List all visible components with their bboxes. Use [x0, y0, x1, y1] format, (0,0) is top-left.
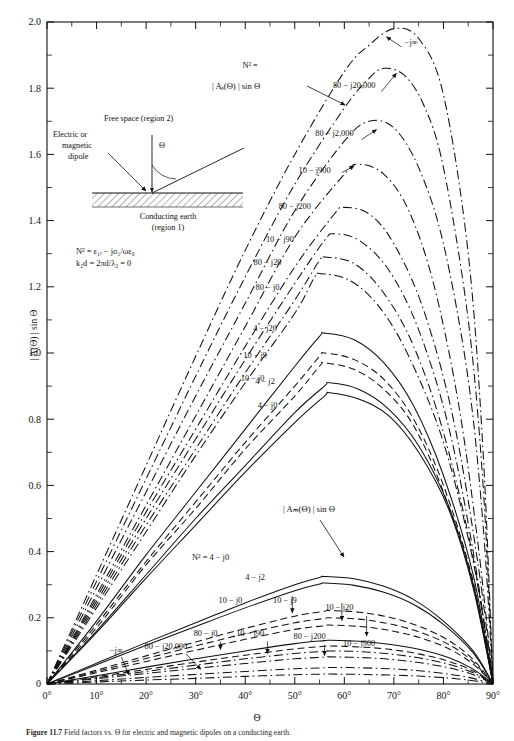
magnetic-group-annotation: | Aₘ(Θ) | sin Θ — [283, 504, 335, 514]
curve-label-leader — [342, 166, 354, 173]
curve-labels-layer: N² =−j∞80 − j20,00080 − j2,00010 − j9008… — [110, 37, 418, 675]
y-tick-label: 0.6 — [29, 480, 42, 491]
inset-earth-hatch — [92, 193, 243, 207]
curve-label: 80 − j200 — [294, 632, 326, 641]
x-tick-label: 60° — [337, 690, 351, 701]
curve-m-4-j0 — [47, 576, 493, 684]
magnetic-group-leader — [320, 520, 344, 557]
figure-caption-number: Figure 11.7 — [26, 728, 62, 737]
curve-label: 10 − j90 — [236, 629, 264, 638]
y-tick-label: 0.2 — [29, 612, 42, 623]
y-tick-label: 0.8 — [29, 414, 42, 425]
inset-dipole-leader — [108, 153, 146, 191]
x-tick-label: 90° — [486, 690, 500, 701]
curve-label: N² = 4 − j0 — [192, 553, 229, 562]
x-tick-label: 50° — [288, 690, 302, 701]
curves-layer — [47, 28, 493, 684]
curve-label-leader — [382, 73, 397, 91]
curve-label: 4 − j0 — [258, 401, 278, 410]
curve-label: 10 − j9 — [273, 596, 297, 605]
curve-label: 80 − j20,000 — [145, 642, 188, 651]
inset-diagram: Free space (region 2) Electric or magnet… — [53, 114, 244, 232]
inset-equations: N² = ε₁ᵣ − jσ₁/ωε₀ k₂d = 2πd/λ₂ = 0 — [76, 247, 135, 268]
electric-group-annotation: | Aₑ(Θ) | sin Θ — [212, 81, 260, 91]
curve-label-leader — [362, 130, 377, 140]
curve-label: N² = — [242, 61, 258, 70]
curve-4-j2 — [47, 382, 493, 684]
curve-label: 10 − j90 — [266, 235, 294, 244]
curve-80-j20000 — [47, 68, 493, 684]
inset-theta-arc — [152, 165, 176, 179]
x-tick-label: 40° — [238, 690, 252, 701]
figure-caption-text: Field factors vs. Θ for electric and mag… — [64, 728, 291, 737]
x-tick-label: 0° — [43, 690, 52, 701]
curve-group-magnetic-dipole — [47, 576, 493, 684]
curve-label: 10 − j20 — [325, 603, 353, 612]
inset-free-space-label: Free space (region 2) — [104, 114, 174, 123]
curve-label: 80 − j200 — [279, 202, 311, 211]
x-tick-label: 20° — [139, 690, 153, 701]
curve-label: 4 − j2 — [255, 377, 275, 386]
curve--j∞ — [47, 28, 493, 684]
equation-n-squared: N² = ε₁ᵣ − jσ₁/ωε₀ — [76, 247, 135, 256]
curve-label: 80 − j0 — [256, 283, 280, 292]
curve-label: 4 − j2 — [245, 573, 265, 582]
chart-canvas: 00.20.40.60.81.01.21.41.61.82.0 0°10°20°… — [0, 0, 514, 741]
curve-label-leader — [386, 37, 401, 47]
y-tick-label: 0.4 — [29, 546, 42, 557]
inset-ray-line — [152, 148, 244, 193]
equation-k2d: k₂d = 2πd/λ₂ = 0 — [76, 259, 131, 268]
x-axis-label: Θ — [0, 712, 514, 723]
curve-label: −j∞ — [405, 38, 418, 47]
curve-label: 10 − j0 — [218, 596, 242, 605]
curve-label: 80 − j0 — [194, 629, 218, 638]
x-tick-label: 80° — [436, 690, 450, 701]
inset-theta-symbol: Θ — [159, 141, 165, 150]
y-tick-label: 1.4 — [29, 215, 42, 226]
curve-label: 80 − j20,000 — [333, 81, 376, 90]
inset-earth-label-line1: Conducting earth — [140, 212, 197, 221]
y-tick-label: 1.8 — [29, 83, 42, 94]
curve-label-leader — [186, 654, 201, 670]
x-tick-label: 70° — [387, 690, 401, 701]
x-tick-label: 30° — [189, 690, 203, 701]
x-tick-label: 10° — [90, 690, 104, 701]
curve-group-electric-dipole — [47, 28, 493, 684]
curve-label: 10 − j900 — [299, 166, 331, 175]
inset-dipole-label-line2: magnetic — [62, 141, 92, 150]
y-tick-label: 2.0 — [29, 16, 42, 27]
inset-dipole-label-line1: Electric or — [53, 130, 88, 139]
figure-root: 00.20.40.60.81.01.21.41.61.82.0 0°10°20°… — [0, 0, 514, 741]
curve-label: 80 − j20 — [254, 258, 282, 267]
curve-10-j0 — [47, 362, 493, 684]
y-tick-label: 0 — [36, 678, 41, 689]
curve-label: −j∞ — [110, 646, 123, 655]
curve-label: 10 − j900 — [343, 639, 375, 648]
inset-earth-label-line2: (region 1) — [152, 223, 185, 232]
curve-label: 80 − j2,000 — [315, 129, 353, 138]
curve-80-j20 — [47, 256, 493, 684]
curve-label: 10 − j9 — [243, 351, 267, 360]
inset-dipole-label-line3: dipole — [68, 152, 89, 161]
y-axis-label: | A(Θ) | sin Θ — [29, 275, 39, 395]
y-tick-label: 1.6 — [29, 149, 42, 160]
curve-label: 4 − j20 — [253, 324, 277, 333]
figure-caption: Figure 11.7 Field factors vs. Θ for elec… — [26, 729, 496, 738]
